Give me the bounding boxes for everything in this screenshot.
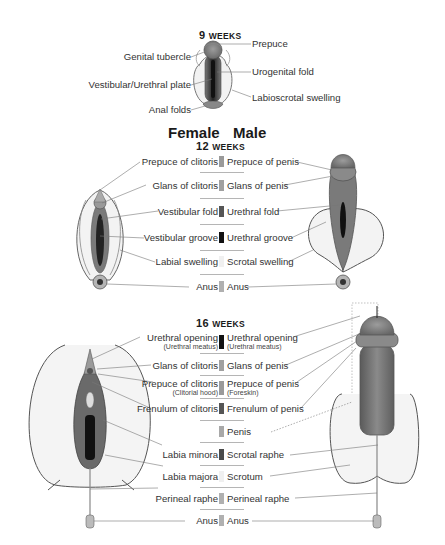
color-swatch	[219, 515, 224, 526]
week12-male-figure	[308, 155, 383, 290]
row-divider	[200, 465, 244, 466]
female-label: Glans of clitoris	[152, 180, 218, 191]
female-header: Female	[168, 124, 220, 141]
female-label: Prepuce of clitoris	[142, 378, 218, 389]
male-label: Penis	[227, 426, 251, 437]
male-label: Urethral fold	[227, 206, 279, 217]
color-swatch	[219, 449, 224, 460]
female-label: Labial swelling	[156, 256, 218, 267]
male-label: Scrotum	[227, 471, 263, 482]
male-label: Frenulum of penis	[227, 403, 304, 414]
label-genital-tubercle: Genital tubercle	[124, 51, 191, 62]
female-label: Anus	[196, 515, 218, 526]
row-divider	[200, 442, 244, 443]
color-swatch	[219, 156, 224, 167]
color-swatch	[219, 232, 224, 243]
female-sublabel: (Clitorial hood)	[172, 389, 218, 397]
female-label: Urethral opening	[147, 332, 218, 343]
color-swatch	[219, 403, 224, 414]
week16-male-figure	[330, 303, 419, 528]
label-labioscrotal-swelling: Labioscrotal swelling	[252, 92, 341, 103]
female-sublabel: (Urethral meatus)	[164, 343, 218, 351]
week9-title: 9 WEEKS	[199, 29, 241, 41]
color-swatch	[219, 281, 224, 292]
female-label: Labia minora	[163, 449, 218, 460]
color-swatch	[219, 180, 224, 191]
male-sublabel: (Urethral meatus)	[227, 343, 281, 351]
row-divider	[200, 274, 244, 275]
label-urogenital-fold: Urogenital fold	[252, 66, 314, 77]
male-label: Glans of penis	[227, 180, 288, 191]
label-prepuce: Prepuce	[252, 38, 288, 49]
color-swatch	[219, 493, 224, 504]
male-label: Anus	[227, 281, 249, 292]
color-swatch	[219, 335, 224, 349]
male-label: Prepuce of penis	[227, 378, 299, 389]
row-divider	[200, 509, 244, 510]
week12-female-figure	[77, 189, 123, 289]
diagram-illustrations	[0, 0, 445, 545]
week12-title: 12 WEEKS	[196, 140, 245, 152]
color-swatch	[219, 471, 224, 482]
male-label: Urethral opening	[227, 332, 298, 343]
female-label: Labia majora	[163, 471, 218, 482]
male-label: Glans of penis	[227, 360, 288, 371]
color-swatch	[219, 256, 224, 267]
female-label: Frenulum of clitoris	[137, 403, 218, 414]
row-divider	[200, 487, 244, 488]
male-label: Scrotal swelling	[227, 256, 294, 267]
row-divider	[200, 375, 244, 376]
male-label: Prepuce of penis	[227, 156, 299, 167]
male-header: Male	[233, 124, 266, 141]
row-divider	[200, 398, 244, 399]
female-label: Anus	[196, 281, 218, 292]
male-label: Urethral groove	[227, 232, 293, 243]
row-divider	[200, 420, 244, 421]
week9-figure	[194, 41, 232, 109]
color-swatch	[219, 426, 224, 437]
row-divider	[200, 198, 244, 199]
male-label: Perineal raphe	[227, 493, 289, 504]
row-divider	[200, 250, 244, 251]
color-swatch	[219, 360, 224, 371]
row-divider	[200, 172, 244, 173]
female-label: Glans of clitoris	[152, 360, 218, 371]
male-label: Scrotal raphe	[227, 449, 284, 460]
color-swatch	[219, 381, 224, 395]
male-sublabel: (Foreskin)	[227, 389, 259, 397]
week16-title: 16 WEEKS	[196, 317, 245, 329]
label-vestibular-urethral-plate: Vestibular/Urethral plate	[89, 79, 191, 90]
week16-female-figure	[29, 345, 150, 528]
color-swatch	[219, 206, 224, 217]
male-label: Anus	[227, 515, 249, 526]
row-divider	[200, 224, 244, 225]
label-anal-folds: Anal folds	[149, 104, 191, 115]
female-label: Vestibular fold	[158, 206, 218, 217]
female-label: Perineal raphe	[156, 493, 218, 504]
row-divider	[200, 353, 244, 354]
female-label: Prepuce of clitoris	[142, 156, 218, 167]
female-label: Vestibular groove	[144, 232, 218, 243]
